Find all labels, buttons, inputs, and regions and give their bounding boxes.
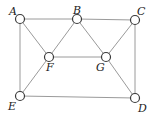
- edge-b-c: [77, 19, 135, 20]
- edges-group: [20, 19, 135, 98]
- node-label-a: A: [8, 5, 17, 18]
- edge-f-e: [20, 57, 49, 96]
- edge-b-f: [49, 19, 77, 57]
- node-label-e: E: [7, 100, 16, 113]
- edge-a-f: [20, 19, 49, 57]
- node-label-d: D: [137, 102, 147, 115]
- edge-g-d: [106, 57, 135, 98]
- edge-c-g: [106, 20, 135, 57]
- edge-e-d: [20, 96, 135, 98]
- graph-diagram: ABCFGED: [0, 0, 151, 117]
- node-label-f: F: [45, 61, 54, 74]
- node-label-g: G: [96, 61, 105, 74]
- node-label-b: B: [72, 4, 81, 17]
- node-e: [16, 92, 25, 101]
- node-label-c: C: [137, 5, 146, 18]
- nodes-group: [16, 15, 140, 103]
- edge-b-g: [77, 19, 106, 57]
